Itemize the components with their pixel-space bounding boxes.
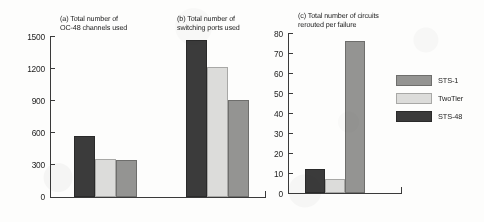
axis-c-tickmark-40	[288, 113, 293, 114]
axis-c-tick-10: 10	[262, 170, 283, 178]
panel-c-title: (c) Total number of circuits rerouted pe…	[298, 11, 428, 29]
legend-item-sts1: STS-1	[396, 75, 480, 86]
legend-swatch-sts48-icon	[396, 111, 432, 122]
axis-ab-spine	[50, 36, 51, 198]
axis-c-tickmark-30	[288, 133, 293, 134]
axis-c-tick-60: 60	[262, 70, 283, 78]
legend-item-sts48: STS-48	[396, 111, 480, 122]
axis-c-tick-80: 80	[262, 30, 283, 38]
axis-ab-tick-1200: 1200	[8, 65, 45, 73]
axis-c-tickmark-80	[288, 33, 293, 34]
legend-label-sts1: STS-1	[438, 76, 458, 85]
axis-c-tick-30: 30	[262, 130, 283, 138]
axis-ab-tickmark-300	[50, 164, 55, 165]
figure-bar-charts: (a) Total number of OC-48 channels used …	[0, 0, 484, 222]
axis-ab-tickmark-600	[50, 132, 55, 133]
axis-ab-tickmark-900	[50, 100, 55, 101]
axis-ab-tick-300: 300	[8, 161, 45, 169]
axis-c-right-endcap	[401, 187, 402, 194]
bar-c-twotier	[325, 179, 345, 193]
axis-ab-tickmark-1200	[50, 68, 55, 69]
legend-swatch-sts1-icon	[396, 75, 432, 86]
axis-c-tick-70: 70	[262, 50, 283, 58]
axis-ab-tickmark-1500	[50, 36, 55, 37]
axis-c-tick-0: 0	[262, 190, 283, 198]
axis-c-tickmark-20	[288, 153, 293, 154]
bar-b-sts48	[186, 40, 207, 197]
bar-a-twotier	[95, 159, 116, 197]
axis-ab-tick-0: 0	[8, 193, 45, 201]
legend-label-twotier: TwoTier	[438, 94, 463, 103]
axis-ab-baseline	[50, 197, 266, 198]
axis-c-tick-40: 40	[262, 110, 283, 118]
axis-c-tick-50: 50	[262, 90, 283, 98]
bar-a-sts1	[116, 160, 137, 197]
bar-c-sts1	[345, 41, 365, 193]
panel-a-title: (a) Total number of OC-48 channels used	[60, 14, 178, 32]
axis-ab-tick-900: 900	[8, 97, 45, 105]
legend: STS-1 TwoTier STS-48	[396, 75, 480, 127]
legend-label-sts48: STS-48	[438, 112, 462, 121]
legend-swatch-twotier-icon	[396, 93, 432, 104]
bar-a-sts48	[74, 136, 95, 197]
axis-c-baseline	[288, 193, 402, 194]
bar-b-sts1	[228, 100, 249, 197]
axis-c-tick-20: 20	[262, 150, 283, 158]
axis-ab-tick-1500: 1500	[8, 33, 45, 41]
axis-c-tickmark-10	[288, 173, 293, 174]
bar-b-twotier	[207, 67, 228, 197]
legend-item-twotier: TwoTier	[396, 93, 480, 104]
axis-c-tickmark-70	[288, 53, 293, 54]
axis-c-tickmark-50	[288, 93, 293, 94]
axis-c-tickmark-60	[288, 73, 293, 74]
axis-ab-tick-600: 600	[8, 129, 45, 137]
bar-c-sts48	[305, 169, 325, 193]
